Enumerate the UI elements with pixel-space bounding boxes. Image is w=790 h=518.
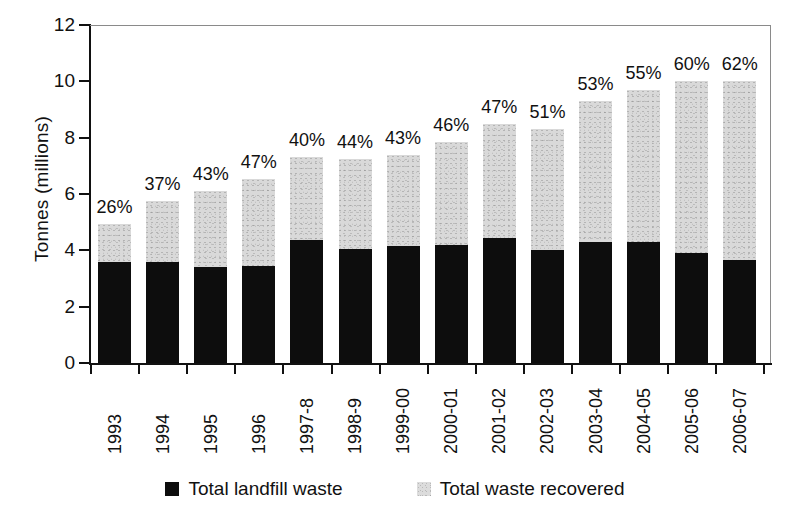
bar-segment-recovered — [483, 124, 516, 238]
bar-segment-recovered — [435, 142, 468, 245]
legend-label: Total waste recovered — [440, 478, 625, 500]
stacked-bar-chart: Tonnes (millions) 024681012 26%37%43%47%… — [0, 0, 790, 518]
x-axis-label-2003-04: 2003-04 — [587, 388, 605, 454]
bar-segment-landfill — [579, 242, 612, 363]
bar-segment-recovered — [723, 81, 756, 260]
x-tick — [667, 364, 669, 374]
bar-value-label: 26% — [85, 198, 145, 216]
y-tick — [79, 80, 90, 82]
x-axis-label-1996: 1996 — [250, 414, 268, 454]
x-axis-label-2001-02: 2001-02 — [490, 388, 508, 454]
x-tick — [427, 364, 429, 374]
bar-segment-landfill — [723, 260, 756, 363]
bar-segment-landfill — [675, 253, 708, 363]
bar-segment-landfill — [387, 246, 420, 363]
y-tick-label: 4 — [15, 240, 75, 259]
x-tick — [715, 364, 717, 374]
x-axis-label-1993: 1993 — [106, 414, 124, 454]
bar-segment-landfill — [531, 250, 564, 363]
bar-segment-landfill — [339, 249, 372, 363]
x-axis-label-1999-00: 1999-00 — [394, 388, 412, 454]
bar-value-label: 46% — [421, 116, 481, 134]
y-tick — [79, 137, 90, 139]
x-axis-label-2002-03: 2002-03 — [538, 388, 556, 454]
x-axis-label-2000-01: 2000-01 — [442, 388, 460, 454]
bar-segment-recovered — [146, 201, 179, 262]
bar-segment-landfill — [194, 267, 227, 363]
x-tick — [186, 364, 188, 374]
x-tick — [90, 364, 92, 374]
x-tick — [379, 364, 381, 374]
bar-segment-landfill — [242, 266, 275, 363]
bar-segment-recovered — [194, 191, 227, 267]
x-tick — [619, 364, 621, 374]
legend-swatch-icon — [417, 482, 431, 496]
bar-value-label: 62% — [710, 55, 770, 73]
bar-segment-landfill — [290, 240, 323, 363]
bar-value-label: 47% — [229, 153, 289, 171]
bar-segment-landfill — [483, 238, 516, 363]
bar-segment-landfill — [627, 242, 660, 363]
bar-segment-recovered — [242, 179, 275, 266]
x-tick — [234, 364, 236, 374]
y-tick — [79, 249, 90, 251]
bar-segment-recovered — [579, 101, 612, 242]
legend-item-recovered[interactable]: Total waste recovered — [417, 478, 625, 500]
bar-value-label: 51% — [517, 103, 577, 121]
y-tick-label: 6 — [15, 184, 75, 203]
x-axis-label-1995: 1995 — [202, 414, 220, 454]
x-axis-label-1997-8: 1997-8 — [298, 398, 316, 454]
legend-swatch-icon — [165, 482, 179, 496]
x-tick — [331, 364, 333, 374]
bar-segment-recovered — [290, 157, 323, 240]
x-axis-label-1994: 1994 — [154, 414, 172, 454]
x-tick — [475, 364, 477, 374]
y-tick-label: 0 — [15, 353, 75, 372]
bar-segment-landfill — [146, 262, 179, 363]
bar-segment-recovered — [387, 155, 420, 247]
x-tick — [282, 364, 284, 374]
x-tick — [523, 364, 525, 374]
bar-segment-recovered — [675, 81, 708, 253]
x-tick — [763, 364, 765, 374]
y-tick — [79, 24, 90, 26]
y-tick — [79, 306, 90, 308]
x-axis-line — [89, 363, 772, 365]
x-tick — [571, 364, 573, 374]
chart-legend: Total landfill wasteTotal waste recovere… — [0, 478, 790, 500]
bar-segment-landfill — [98, 262, 131, 363]
y-tick-label: 12 — [15, 15, 75, 34]
y-tick-label: 10 — [15, 71, 75, 90]
y-tick-label: 2 — [15, 297, 75, 316]
x-axis-label-2004-05: 2004-05 — [635, 388, 653, 454]
x-tick — [138, 364, 140, 374]
bar-segment-recovered — [627, 90, 660, 242]
bar-segment-recovered — [339, 159, 372, 249]
x-axis-label-2006-07: 2006-07 — [731, 388, 749, 454]
legend-label: Total landfill waste — [188, 478, 342, 500]
x-axis-label-1998-9: 1998-9 — [346, 398, 364, 454]
y-tick-label: 8 — [15, 128, 75, 147]
legend-item-landfill[interactable]: Total landfill waste — [165, 478, 342, 500]
y-tick — [79, 193, 90, 195]
x-axis-label-2005-06: 2005-06 — [683, 388, 701, 454]
bar-segment-landfill — [435, 245, 468, 363]
bar-segment-recovered — [531, 129, 564, 250]
y-tick — [79, 362, 90, 364]
bar-segment-recovered — [98, 224, 131, 262]
